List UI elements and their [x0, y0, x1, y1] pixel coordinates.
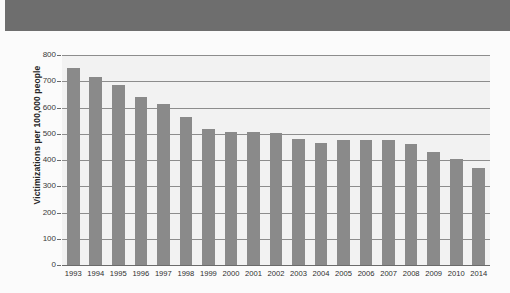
- y-tick-mark: [57, 213, 61, 214]
- y-tick-mark: [57, 265, 61, 266]
- x-tick-label: 1997: [152, 269, 175, 279]
- bar: [270, 133, 283, 265]
- bar: [135, 97, 148, 265]
- bar: [472, 168, 485, 265]
- y-tick-label: 100: [16, 235, 56, 243]
- page-header-band: [5, 0, 510, 31]
- y-tick-mark: [57, 108, 61, 109]
- y-tick-mark: [57, 134, 61, 135]
- bar: [89, 77, 102, 265]
- x-tick-label: 2010: [445, 269, 468, 279]
- x-tick-label: 2006: [355, 269, 378, 279]
- bar: [405, 144, 418, 265]
- y-tick-mark: [57, 81, 61, 82]
- x-tick-label: 1995: [107, 269, 130, 279]
- y-tick-mark: [57, 186, 61, 187]
- bar: [67, 68, 80, 265]
- bar: [315, 143, 328, 265]
- y-tick-label: 0: [16, 261, 56, 269]
- x-tick-label: 2014: [467, 269, 490, 279]
- x-axis-tick-labels: 1993199419951996199719981999200020012002…: [62, 269, 490, 285]
- bar: [247, 132, 260, 265]
- x-tick-label: 1993: [62, 269, 85, 279]
- bar-series: [62, 55, 490, 265]
- bar: [337, 140, 350, 265]
- y-tick-mark: [57, 55, 61, 56]
- x-tick-label: 1998: [175, 269, 198, 279]
- bar: [157, 104, 170, 265]
- bar: [427, 152, 440, 265]
- x-tick-label: 2005: [332, 269, 355, 279]
- x-tick-label: 2000: [220, 269, 243, 279]
- x-tick-label: 1994: [85, 269, 108, 279]
- bar: [180, 117, 193, 265]
- x-tick-label: 1999: [197, 269, 220, 279]
- y-axis-title: Victimizations per 100,000 people: [32, 35, 42, 235]
- bar: [382, 140, 395, 265]
- chart-figure: 0100200300400500600700800 Victimizations…: [0, 0, 510, 293]
- bar: [112, 85, 125, 265]
- bar: [292, 139, 305, 265]
- bar: [360, 140, 373, 265]
- x-tick-label: 2004: [310, 269, 333, 279]
- x-tick-label: 2001: [242, 269, 265, 279]
- x-tick-label: 2009: [422, 269, 445, 279]
- x-tick-label: 2003: [287, 269, 310, 279]
- x-tick-label: 1996: [130, 269, 153, 279]
- y-tick-mark: [57, 160, 61, 161]
- gridline-0: [62, 265, 490, 266]
- y-tick-mark: [57, 239, 61, 240]
- x-tick-label: 2002: [265, 269, 288, 279]
- bar: [225, 132, 238, 265]
- x-tick-label: 2007: [377, 269, 400, 279]
- bar: [450, 159, 463, 265]
- x-tick-label: 2008: [400, 269, 423, 279]
- bar: [202, 129, 215, 266]
